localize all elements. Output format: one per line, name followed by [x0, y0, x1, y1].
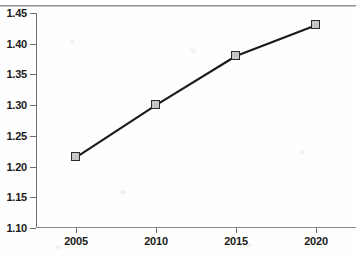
y-tick-label: 1.40	[6, 38, 27, 50]
x-tick	[156, 228, 157, 233]
x-tick	[76, 228, 77, 233]
data-point-marker[interactable]	[231, 51, 240, 60]
plot-area: 1.101.151.201.251.301.351.401.45 2005201…	[36, 13, 356, 228]
y-tick-label: 1.15	[6, 191, 27, 203]
y-tick-label: 1.30	[6, 99, 27, 111]
y-tick-label: 1.10	[6, 222, 27, 234]
data-point-marker[interactable]	[151, 100, 160, 109]
y-tick	[30, 228, 36, 229]
x-tick-label: 2015	[224, 235, 248, 247]
y-tick-label: 1.20	[6, 161, 27, 173]
data-point-marker[interactable]	[311, 20, 320, 29]
x-tick	[236, 228, 237, 233]
paper-speck	[55, 245, 61, 249]
chart-page: 1.101.151.201.251.301.351.401.45 2005201…	[0, 0, 356, 260]
x-tick-label: 2010	[144, 235, 168, 247]
x-tick-label: 2005	[64, 235, 88, 247]
x-tick-label: 2020	[304, 235, 328, 247]
series-line	[36, 13, 356, 228]
data-point-marker[interactable]	[71, 152, 80, 161]
header-rule-shadow	[0, 6, 356, 7]
y-tick-label: 1.45	[6, 7, 27, 19]
y-tick-label: 1.25	[6, 130, 27, 142]
y-tick-label: 1.35	[6, 68, 27, 80]
x-tick	[316, 228, 317, 233]
